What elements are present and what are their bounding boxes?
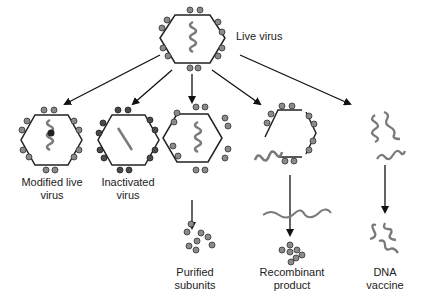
dna-vaccine-icon — [370, 112, 405, 253]
modified-live-virus-icon — [19, 107, 82, 173]
subunits-cluster — [184, 221, 215, 253]
diagram-graphics — [0, 0, 434, 297]
label-line-1: Recombinant — [250, 266, 334, 279]
purified-subunits-virus-icon — [163, 104, 231, 253]
vaccine-types-diagram: Live virus Modified live virus Inactivat… — [0, 0, 434, 297]
live-virus-icon — [159, 7, 225, 71]
label-line-2: virus — [4, 189, 100, 202]
vaccine-label-modified-live: Modified live virus — [4, 176, 100, 202]
label-line-2: subunits — [160, 279, 230, 292]
label-line-2: virus — [88, 189, 168, 202]
label-line-2: product — [250, 279, 334, 292]
label-line-1: Inactivated — [88, 176, 168, 189]
recombinant-product-cluster — [279, 242, 305, 265]
recombinant-virus-icon — [255, 103, 331, 265]
live-virus-label: Live virus — [236, 30, 282, 43]
label-line-1: DNA — [355, 266, 415, 279]
label-line-2: vaccine — [355, 279, 415, 292]
vaccine-label-inactivated: Inactivated virus — [88, 176, 168, 202]
label-line-1: Purified — [160, 266, 230, 279]
label-line-1: Modified live — [4, 176, 100, 189]
vaccine-label-recombinant: Recombinant product — [250, 266, 334, 292]
inactivated-virus-icon — [96, 107, 159, 173]
vaccine-label-dna: DNA vaccine — [355, 266, 415, 292]
vaccine-label-purified-subunits: Purified subunits — [160, 266, 230, 292]
